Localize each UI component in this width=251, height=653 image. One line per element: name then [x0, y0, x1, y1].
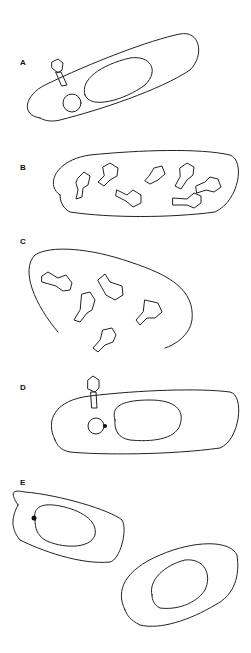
- panel-e-daughter-cell-2: [121, 544, 237, 627]
- panel-d-cell: [51, 376, 238, 454]
- phage-particles: [76, 163, 221, 208]
- panel-a-cell: [27, 34, 198, 121]
- panel-c-lysed-cell: [29, 249, 192, 352]
- phage-icon: [52, 59, 67, 86]
- phage-cycle-diagram: [0, 0, 251, 653]
- integration-point-icon: [103, 424, 107, 428]
- panel-e-daughter-cell-1: [13, 491, 124, 562]
- phage-icon: [88, 376, 99, 408]
- released-phages: [42, 272, 162, 352]
- prophage-marker-icon: [32, 516, 37, 521]
- panel-b-cell: [53, 150, 238, 216]
